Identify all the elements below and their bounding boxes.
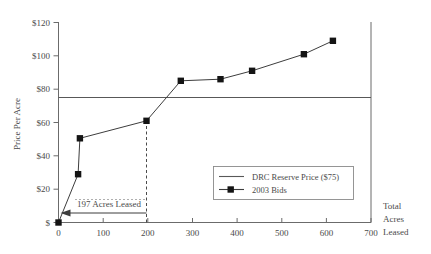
acres-leased-annotation: 197 Acres Leased — [61, 199, 147, 216]
x-axis-title-line: Acres — [383, 214, 404, 224]
y-tick-label: $40 — [37, 151, 51, 161]
annotation-arrow-head — [61, 210, 71, 217]
data-point-marker — [330, 38, 336, 44]
x-axis-tick-labels: 0 100 200 300 400 500 600 700 — [56, 228, 378, 238]
data-point-marker — [178, 78, 184, 84]
data-point-marker — [75, 171, 81, 177]
x-tick-label: 100 — [96, 228, 110, 238]
annotation-label: 197 Acres Leased — [77, 199, 141, 209]
chart-container: $120 $100 $80 $60 $40 $20 $ 0 100 200 30… — [0, 0, 431, 254]
y-tick-label: $120 — [32, 18, 51, 28]
chart-canvas: $120 $100 $80 $60 $40 $20 $ 0 100 200 30… — [0, 0, 431, 254]
x-tick-label: 700 — [364, 228, 378, 238]
x-tick-label: 0 — [56, 228, 61, 238]
x-tick-label: 200 — [141, 228, 155, 238]
legend-marker-swatch — [228, 186, 234, 192]
x-axis-title-line: Total — [383, 201, 402, 211]
data-point-marker — [143, 118, 149, 124]
data-point-marker — [217, 76, 223, 82]
data-point-marker — [55, 219, 61, 225]
y-axis-tick-labels: $120 $100 $80 $60 $40 $20 $ — [32, 18, 51, 228]
x-axis-title: Total Acres Leased — [383, 201, 409, 237]
legend-item-label: 2003 Bids — [252, 185, 287, 195]
data-point-marker — [77, 135, 83, 141]
x-tick-label: 400 — [230, 228, 244, 238]
legend-item-label: DRC Reserve Price ($75) — [252, 172, 339, 182]
x-axis-ticks — [59, 218, 372, 223]
chart-legend: DRC Reserve Price ($75) 2003 Bids — [214, 167, 354, 200]
y-tick-label: $100 — [32, 51, 51, 61]
y-tick-label: $ — [46, 218, 51, 228]
y-axis-ticks — [54, 23, 59, 223]
y-tick-label: $20 — [37, 184, 51, 194]
data-point-marker — [249, 68, 255, 74]
y-tick-label: $60 — [37, 118, 51, 128]
x-tick-label: 300 — [186, 228, 200, 238]
y-tick-label: $80 — [37, 84, 51, 94]
x-axis-title-line: Leased — [383, 227, 409, 237]
data-point-marker — [301, 51, 307, 57]
y-axis-title: Price Per Acre — [12, 98, 22, 150]
x-tick-label: 600 — [320, 228, 334, 238]
x-tick-label: 500 — [275, 228, 289, 238]
